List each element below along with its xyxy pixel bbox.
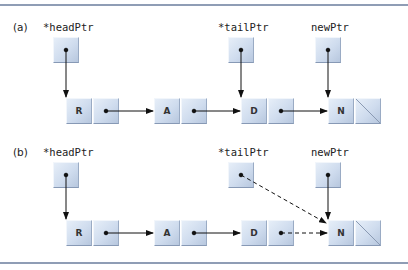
arrows-layer (0, 0, 408, 270)
null-slash-b (356, 221, 380, 245)
tailptr-dashed-arrow-b (241, 175, 326, 223)
null-slash-a (356, 99, 380, 123)
